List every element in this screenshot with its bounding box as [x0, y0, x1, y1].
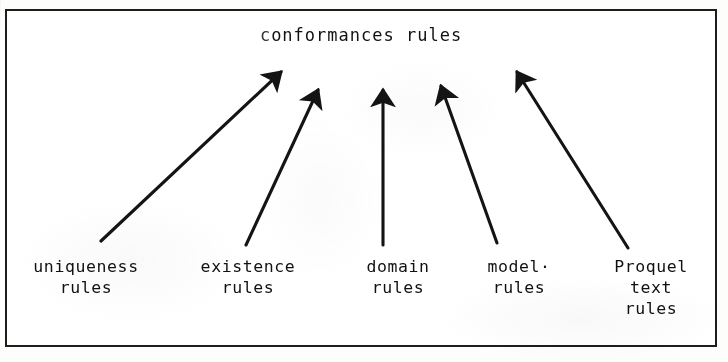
- diagram-title: conformances rules: [260, 25, 462, 45]
- node-label-model: model· rules: [487, 256, 550, 298]
- node-label-uniqueness: uniqueness rules: [33, 256, 138, 298]
- arrow-proquel: [517, 72, 628, 248]
- node-label-proquel: Proquel text rules: [614, 256, 688, 319]
- scanned-figure-page: conformances rules uniqueness rules exis…: [0, 0, 728, 362]
- node-label-domain: domain rules: [366, 256, 429, 298]
- arrow-existence: [246, 90, 318, 245]
- arrow-model: [441, 86, 497, 243]
- node-label-existence: existence rules: [201, 256, 296, 298]
- arrow-uniqueness: [101, 72, 281, 241]
